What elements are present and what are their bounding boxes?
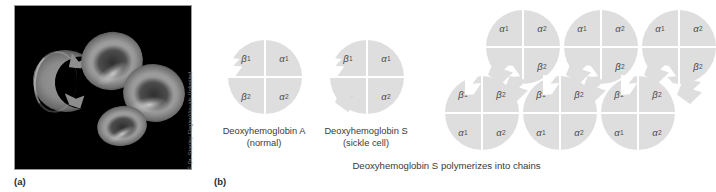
caption-line-1: Deoxyhemoglobin S xyxy=(296,126,436,138)
blood-smear-micrograph xyxy=(14,5,192,170)
subunit-label: α xyxy=(652,127,657,138)
deoxyhemoglobin-s-molecule: β1 α1 β2 α2 xyxy=(330,40,404,114)
subunit-subscript: 1 xyxy=(387,55,391,62)
subunit-alpha1: α1 xyxy=(367,40,404,77)
subunit-alpha1: α1 xyxy=(265,40,302,77)
subunit-label: α xyxy=(496,127,501,138)
subunit-subscript: 2 xyxy=(580,91,584,98)
subunit-alpha1: α1 xyxy=(486,10,523,47)
subunit-label: α xyxy=(458,127,463,138)
subunit-subscript: 1 xyxy=(349,55,353,62)
subunit-alpha2: α2 xyxy=(367,77,404,114)
panel-b-diagrams: (b) β1 α1 β2 α2 Deoxyhemoglobin A (norma… xyxy=(200,0,701,192)
subunit-subscript: 1 xyxy=(661,25,665,32)
subunit-alpha1: α1 xyxy=(601,113,638,150)
panel-a-micrograph: © Dr. Stanley Flegler/Visuals Unlimited … xyxy=(0,0,200,192)
subunit-subscript: 2 xyxy=(285,93,289,100)
subunit-subscript: 1 xyxy=(542,129,546,136)
polymer-chain-caption: Deoxyhemoglobin S polymerizes into chain… xyxy=(200,160,693,171)
subunit-subscript: 2 xyxy=(543,25,547,32)
subunit-label: α xyxy=(279,53,284,64)
polymer-molecule-bottom-1: β1 β2 α1 α2 xyxy=(445,76,519,150)
subunit-subscript: 2 xyxy=(247,93,251,100)
subunit-alpha2: α2 xyxy=(679,10,716,47)
subunit-label: β xyxy=(241,91,246,102)
subunit-label: α xyxy=(499,23,504,34)
subunit-subscript: 2 xyxy=(658,91,662,98)
subunit-alpha2: α2 xyxy=(482,113,519,150)
subunit-subscript: 2 xyxy=(621,25,625,32)
subunit-label: β xyxy=(343,53,348,64)
subunit-subscript: 1 xyxy=(464,129,468,136)
subunit-label: α xyxy=(655,23,660,34)
subunit-label: β xyxy=(615,61,620,72)
subunit-label: β xyxy=(693,61,698,72)
subunit-subscript: 2 xyxy=(502,129,506,136)
deoxyhemoglobin-s-caption: Deoxyhemoglobin S (sickle cell) xyxy=(296,126,436,149)
deoxyhemoglobin-a-molecule: β1 α1 β2 α2 xyxy=(228,40,302,114)
subunit-subscript: 1 xyxy=(247,55,251,62)
subunit-label: β xyxy=(574,89,579,100)
subunit-label: β xyxy=(537,61,542,72)
photo-credit: © Dr. Stanley Flegler/Visuals Unlimited xyxy=(187,72,193,170)
subunit-label: β xyxy=(652,89,657,100)
polymer-molecule-bottom-3: β1 β2 α1 α2 xyxy=(601,76,675,150)
subunit-label: α xyxy=(574,127,579,138)
subunit-label: β xyxy=(458,89,463,100)
panel-label-b: (b) xyxy=(214,176,226,187)
subunit-label: α xyxy=(577,23,582,34)
polymer-caption-text: Deoxyhemoglobin S polymerizes into chain… xyxy=(352,160,540,171)
subunit-label: β xyxy=(496,89,501,100)
subunit-subscript: 2 xyxy=(502,91,506,98)
subunit-subscript: 1 xyxy=(285,55,289,62)
subunit-subscript: 2 xyxy=(621,63,625,70)
subunit-alpha2: α2 xyxy=(523,10,560,47)
caption-line-2: (sickle cell) xyxy=(296,138,436,150)
subunit-subscript: 2 xyxy=(387,93,391,100)
polymer-molecule-bottom-2: β1 β2 α1 α2 xyxy=(523,76,597,150)
subunit-beta1: β1 xyxy=(523,76,560,113)
subunit-alpha1: α1 xyxy=(642,10,679,47)
subunit-beta1: β1 xyxy=(601,76,638,113)
subunit-label: α xyxy=(537,23,542,34)
subunit-subscript: 1 xyxy=(583,25,587,32)
subunit-alpha2: α2 xyxy=(601,10,638,47)
subunit-label: α xyxy=(614,127,619,138)
subunit-label: β xyxy=(241,53,246,64)
subunit-subscript: 2 xyxy=(580,129,584,136)
subunit-subscript: 2 xyxy=(699,25,703,32)
subunit-subscript: 1 xyxy=(620,129,624,136)
subunit-subscript: 2 xyxy=(543,63,547,70)
subunit-label: α xyxy=(693,23,698,34)
subunit-subscript: 2 xyxy=(658,129,662,136)
subunit-beta1: β1 xyxy=(445,76,482,113)
subunit-label: β xyxy=(614,89,619,100)
subunit-alpha1: α1 xyxy=(523,113,560,150)
subunit-alpha1: α1 xyxy=(564,10,601,47)
subunit-label: α xyxy=(381,53,386,64)
subunit-label: α xyxy=(279,91,284,102)
subunit-label: α xyxy=(615,23,620,34)
subunit-alpha2: α2 xyxy=(638,113,675,150)
subunit-alpha2: α2 xyxy=(265,77,302,114)
subunit-beta2: β2 xyxy=(228,77,265,114)
subunit-label: α xyxy=(536,127,541,138)
subunit-alpha1: α1 xyxy=(445,113,482,150)
subunit-subscript: 2 xyxy=(699,63,703,70)
subunit-alpha2: α2 xyxy=(560,113,597,150)
subunit-label: β xyxy=(536,89,541,100)
subunit-subscript: 1 xyxy=(505,25,509,32)
panel-label-a: (a) xyxy=(14,176,26,187)
subunit-label: α xyxy=(381,91,386,102)
